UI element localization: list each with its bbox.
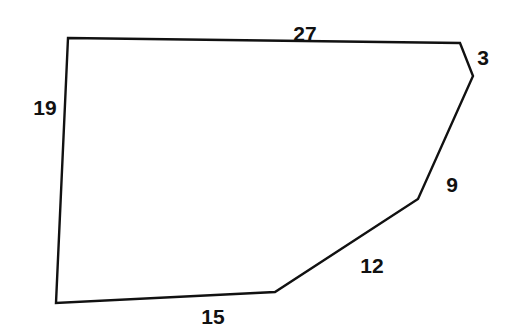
diagram-canvas: 27 3 9 12 15 19: [0, 0, 508, 335]
edge-label-right-diagonal: 9: [446, 174, 458, 195]
edge-label-left: 19: [33, 97, 56, 118]
edge-label-lower-diagonal: 12: [360, 255, 383, 276]
edge-label-bottom: 15: [201, 306, 224, 327]
edge-label-upper-right: 3: [477, 47, 489, 68]
polygon-outline: [56, 38, 473, 303]
edge-label-top: 27: [293, 23, 316, 44]
polygon-shape: [0, 0, 508, 335]
